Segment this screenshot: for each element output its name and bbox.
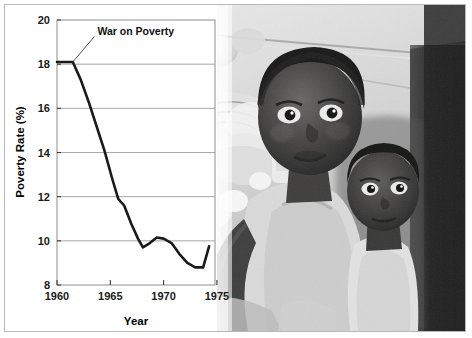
x-tick-label: 1975 [205,290,229,302]
y-tick-label: 14 [38,147,51,159]
x-tick-label: 1965 [98,290,122,302]
y-tick-label: 12 [38,191,50,203]
y-axis-title: Poverty Rate (%) [14,106,26,198]
x-tick-label: 1970 [151,290,175,302]
annotation-war-on-poverty: War on Poverty [97,25,174,37]
x-tick-label: 1960 [45,290,69,302]
y-tick-label: 20 [38,14,50,26]
poverty-rate-figure: 8 10 12 14 16 18 20 1960 1965 1970 1975 … [0,0,472,338]
y-tick-label: 18 [38,58,50,70]
poverty-rate-chart: 8 10 12 14 16 18 20 1960 1965 1970 1975 … [0,0,472,338]
y-tick-label: 10 [38,235,50,247]
x-axis-title: Year [124,315,149,327]
y-tick-label: 16 [38,102,50,114]
